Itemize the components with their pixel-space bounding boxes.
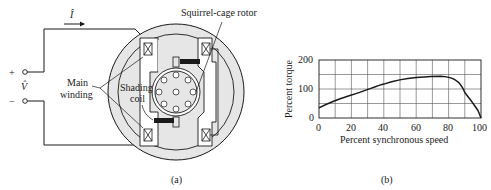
x-axis-label: Percent synchronous speed	[340, 134, 448, 145]
minus-terminal-icon	[23, 99, 28, 104]
xtick-20: 20	[346, 122, 356, 133]
xtick-100: 100	[472, 122, 487, 133]
plus-terminal-icon	[23, 70, 28, 75]
y-axis-label: Percent torque	[283, 59, 294, 118]
xtick-60: 60	[411, 122, 421, 133]
shading-coil-lower	[154, 118, 174, 123]
chart-grid	[319, 60, 481, 118]
ytick-200: 200	[298, 54, 313, 65]
shading-coil-label-line1: Shading	[120, 82, 153, 93]
xtick-0: 0	[316, 122, 321, 133]
figure-canvas: Î + − V̂ Main winding Shading coil Squir…	[0, 0, 491, 190]
xtick-80: 80	[443, 122, 453, 133]
shading-coil-upper	[180, 59, 200, 64]
main-winding-label-line1: Main	[67, 77, 88, 88]
main-winding-label-line2: winding	[60, 89, 93, 100]
plus-sign: +	[9, 67, 15, 78]
torque-speed-chart	[319, 60, 481, 118]
upper-pole-notch	[173, 57, 179, 67]
shading-coil-label-line2: coil	[130, 93, 145, 104]
rotor-bars	[156, 72, 196, 112]
current-label: Î	[69, 9, 74, 20]
caption-a: (a)	[171, 174, 182, 186]
current-arrowhead-icon	[80, 22, 85, 27]
caption-b: (b)	[381, 174, 393, 186]
ytick-0: 0	[309, 112, 314, 123]
ytick-100: 100	[298, 83, 313, 94]
rotor-label: Squirrel-cage rotor	[181, 7, 257, 18]
voltage-label: V̂	[21, 80, 29, 92]
minus-sign: −	[9, 96, 15, 107]
xtick-40: 40	[378, 122, 388, 133]
